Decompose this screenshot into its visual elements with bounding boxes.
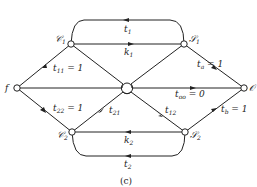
node-o [241, 85, 247, 91]
arrow-t2 [125, 154, 131, 158]
label-t11: t11 = 1 [53, 63, 83, 74]
label-t2: t2 [124, 159, 132, 170]
label-ta: ta = 1 [197, 59, 223, 70]
label-tb: tb = 1 [221, 104, 247, 115]
label-c1: 𝒞1 [55, 34, 66, 45]
edge-too [17, 83, 244, 88]
label-o: 𝒪 [249, 83, 257, 93]
node-f [14, 85, 20, 91]
label-too: too = 0 [175, 89, 205, 100]
node-c2 [69, 129, 75, 135]
label-s2: 𝒮2 [190, 130, 201, 141]
node-c1 [68, 41, 74, 47]
label-t12: t12 [165, 105, 176, 116]
label-t22: t22 = 1 [53, 103, 83, 114]
signal-flow-diagram: f 𝒞1 𝒞2 𝒮1 𝒮2 𝒪 t11 = 1 t22 = 1 t21 t12 … [0, 0, 257, 187]
figure-caption: (c) [120, 176, 132, 186]
label-c2: 𝒞2 [57, 130, 68, 141]
node-s1 [181, 41, 187, 47]
arrow-t1 [123, 18, 129, 22]
label-k1: k1 [124, 47, 133, 58]
label-f: f [4, 83, 10, 93]
node-s2 [182, 129, 188, 135]
arrow-k1 [128, 42, 134, 46]
label-k2: k2 [124, 135, 133, 146]
arrow-k2 [125, 130, 131, 134]
label-t21: t21 [109, 105, 120, 116]
label-s1: 𝒮1 [189, 34, 200, 45]
label-t1: t1 [124, 24, 131, 35]
